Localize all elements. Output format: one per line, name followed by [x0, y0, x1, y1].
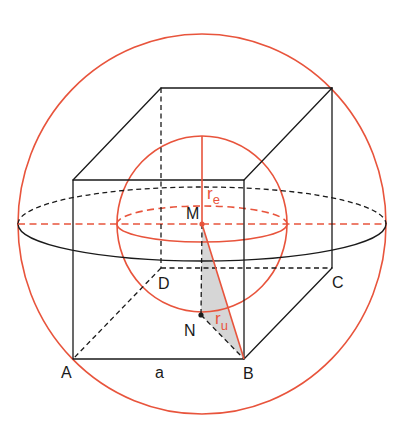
label-n: N	[184, 322, 196, 339]
label-c: C	[332, 274, 344, 291]
label-b: B	[243, 365, 254, 382]
cube-spheres-diagram: M re D C N ru A a B	[0, 0, 399, 426]
label-a-vertex: A	[61, 364, 72, 381]
label-r-u-sub: u	[221, 318, 228, 333]
point-n	[198, 312, 203, 317]
label-edge-a: a	[155, 364, 164, 381]
label-m: M	[186, 205, 199, 222]
point-m	[199, 221, 204, 226]
label-r-e-sub: e	[213, 192, 220, 207]
label-d: D	[158, 275, 170, 292]
